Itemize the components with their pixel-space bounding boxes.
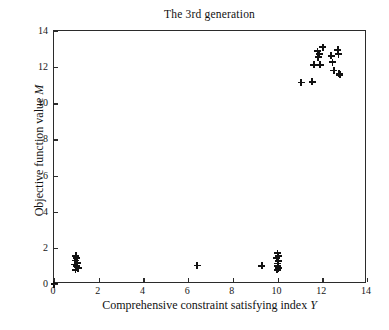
data-point-marker: [274, 266, 281, 273]
data-point-marker: [72, 252, 79, 259]
data-point-marker: [72, 257, 79, 264]
data-point-marker: [274, 262, 281, 269]
data-point-marker: [336, 71, 343, 78]
data-point-marker: [194, 262, 201, 269]
figure-container: The 3rd generation 024681012140246810121…: [0, 0, 389, 330]
scatter-points-layer: [54, 31, 365, 282]
data-point-marker: [335, 51, 342, 58]
data-point-marker: [275, 252, 282, 259]
x-tick-mark: [99, 278, 100, 282]
data-point-marker: [334, 46, 341, 53]
x-tick-mark: [143, 278, 144, 282]
data-point-marker: [73, 263, 80, 270]
y-axis-label-variable: M: [32, 85, 46, 95]
y-tick-mark: [54, 31, 58, 32]
y-tick-mark: [54, 67, 58, 68]
data-point-marker: [309, 78, 316, 85]
x-tick-mark: [188, 278, 189, 282]
x-tick-mark: [54, 278, 55, 282]
data-point-marker: [274, 250, 281, 257]
y-tick-mark: [54, 212, 58, 213]
data-point-marker: [317, 61, 324, 68]
x-axis-label-variable: Y: [310, 298, 317, 312]
data-point-marker: [258, 262, 265, 269]
x-tick-label: 6: [185, 285, 190, 296]
y-axis-label-text: Objective function value: [32, 95, 46, 217]
data-point-marker: [316, 51, 323, 58]
x-tick-label: 12: [316, 285, 326, 296]
data-point-marker: [310, 61, 317, 68]
data-point-marker: [298, 79, 305, 86]
data-point-marker: [71, 261, 78, 268]
x-tick-label: 4: [140, 285, 145, 296]
data-point-marker: [72, 266, 79, 273]
x-tick-mark: [233, 278, 234, 282]
y-tick-mark: [54, 248, 58, 249]
y-tick-mark: [54, 103, 58, 104]
chart-title: The 3rd generation: [53, 8, 366, 20]
x-tick-label: 2: [95, 285, 100, 296]
x-tick-label: 0: [51, 285, 56, 296]
data-point-marker: [314, 48, 321, 55]
x-tick-mark: [367, 278, 368, 282]
data-point-marker: [275, 257, 282, 264]
x-tick-label: 8: [229, 285, 234, 296]
y-tick-mark: [54, 139, 58, 140]
x-axis-label: Comprehensive constraint satisfying inde…: [53, 298, 366, 313]
data-point-marker: [315, 54, 322, 61]
data-point-marker: [319, 44, 326, 51]
y-axis-label: Objective function value M: [32, 36, 47, 266]
x-tick-label: 10: [272, 285, 282, 296]
x-tick-label: 14: [361, 285, 371, 296]
data-point-marker: [328, 52, 335, 59]
data-point-marker: [336, 70, 343, 77]
y-tick-label: 14: [22, 25, 48, 36]
data-point-marker: [73, 255, 80, 262]
data-point-marker: [275, 265, 282, 272]
data-point-marker: [273, 255, 280, 262]
x-axis-label-text: Comprehensive constraint satisfying inde…: [102, 298, 310, 312]
y-tick-mark: [54, 176, 58, 177]
data-point-marker: [274, 260, 281, 267]
data-point-marker: [330, 67, 337, 74]
data-point-marker: [75, 265, 82, 272]
x-tick-mark: [278, 278, 279, 282]
data-point-marker: [329, 59, 336, 66]
x-tick-mark: [322, 278, 323, 282]
y-tick-label: 0: [22, 278, 48, 289]
plot-area: [53, 30, 366, 283]
data-point-marker: [74, 259, 81, 266]
